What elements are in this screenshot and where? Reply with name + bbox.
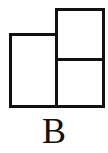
top-right-square	[55, 8, 105, 61]
left-rectangle	[9, 33, 58, 108]
figure-label: B	[0, 113, 108, 149]
bottom-right-square	[55, 58, 105, 108]
